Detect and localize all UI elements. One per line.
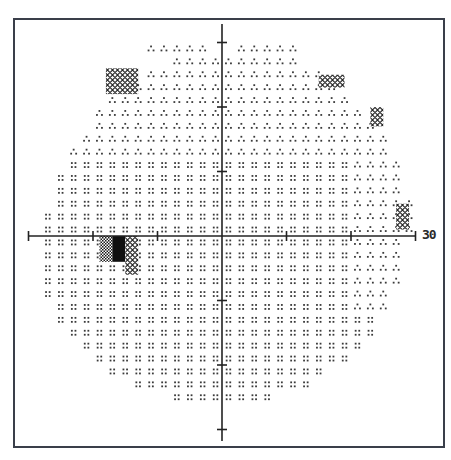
nasal-edge-patch-2 (396, 204, 409, 230)
defect-patches (99, 68, 409, 274)
superior-nasal-patch (319, 75, 345, 88)
field-dot-grid (45, 46, 412, 401)
blind-spot-scotoma-checker (99, 236, 112, 262)
blind-spot-scotoma-hatch (125, 236, 138, 275)
visual-field-plot (0, 0, 451, 460)
axis-end-label: 30 (422, 227, 436, 242)
nasal-edge-patch-1 (370, 107, 383, 126)
blind-spot-scotoma-solid (112, 236, 125, 262)
superior-temporal-patch (106, 68, 138, 94)
axes (29, 24, 417, 441)
